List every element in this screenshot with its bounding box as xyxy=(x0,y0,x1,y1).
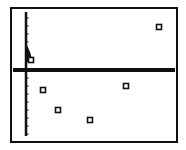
calculator-graph-screen xyxy=(0,0,186,150)
data-point xyxy=(88,118,93,123)
data-point xyxy=(29,58,34,63)
data-point xyxy=(157,25,162,30)
data-point xyxy=(124,84,129,89)
background xyxy=(0,0,186,150)
data-point xyxy=(56,108,61,113)
data-point xyxy=(41,88,46,93)
